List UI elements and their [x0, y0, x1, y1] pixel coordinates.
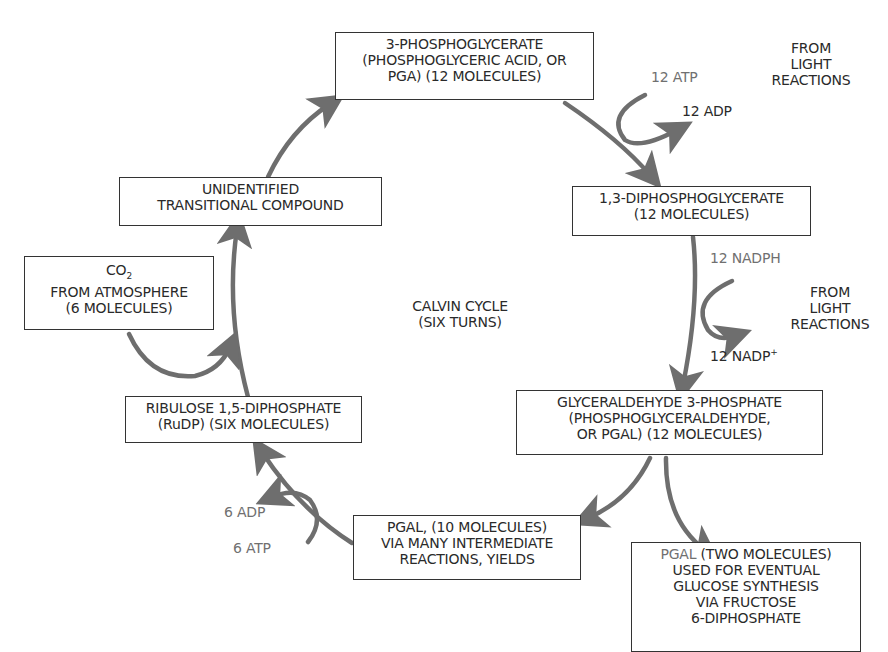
node-text: VIA MANY INTERMEDIATE: [354, 535, 580, 551]
center-subtitle: (SIX TURNS): [395, 314, 525, 330]
node-1-3-diphosphoglycerate: 1,3-DIPHOSPHOGLYCERATE (12 MOLECULES): [572, 186, 811, 236]
node-3-phosphoglycerate: 3-PHOSPHOGLYCERATE (PHOSPHOGLYCERIC ACID…: [335, 32, 594, 100]
node-text: REACTIONS, YIELDS: [354, 551, 580, 567]
node-text: (PHOSPHOGLYCERALDEHYDE,: [517, 410, 822, 426]
arrow-dpg-to-pgal: [683, 237, 695, 385]
arrow-atp6-adp6-hook: [272, 493, 317, 542]
node-pgal-10-molecules: PGAL, (10 MOLECULES) VIA MANY INTERMEDIA…: [353, 515, 581, 580]
node-text: PGA) (12 MOLECULES): [336, 68, 593, 84]
nadp-superscript: +: [770, 347, 777, 357]
node-text: GLYCERALDEHYDE 3-PHOSPHATE: [517, 394, 822, 410]
arrow-pgal-to-pgal10: [588, 458, 650, 518]
arrow-pgal-to-pgal2: [666, 458, 705, 550]
node-unidentified-transitional: UNIDENTIFIED TRANSITIONAL COMPOUND: [119, 177, 382, 226]
arrow-atp-adp-hook: [618, 95, 677, 143]
label-6-atp: 6 ATP: [233, 540, 271, 556]
node-text: PGAL (TWO MOLECULES): [632, 546, 860, 562]
label-12-adp: 12 ADP: [682, 103, 732, 119]
label-12-nadp-plus: 12 NADP+: [710, 344, 777, 364]
node-text: OR PGAL) (12 MOLECULES): [517, 426, 822, 442]
node-text: 6-DIPHOSPHATE: [632, 610, 860, 626]
label-6-adp: 6 ADP: [224, 504, 265, 520]
label-text: LIGHT: [780, 300, 880, 316]
node-text: TRANSITIONAL COMPOUND: [120, 197, 381, 213]
node-text: 1,3-DIPHOSPHOGLYCERATE: [573, 190, 810, 206]
node-text: GLUCOSE SYNTHESIS: [632, 578, 860, 594]
node-text: FROM ATMOSPHERE: [25, 284, 213, 300]
label-text: FROM: [780, 284, 880, 300]
label-12-atp: 12 ATP: [651, 69, 698, 85]
label-text: LIGHT: [756, 56, 866, 72]
node-text: USED FOR EVENTUAL: [632, 562, 860, 578]
node-text: 3-PHOSPHOGLYCERATE: [336, 36, 593, 52]
node-text: VIA FRUCTOSE: [632, 594, 860, 610]
node-ribulose-diphosphate: RIBULOSE 1,5-DIPHOSPHATE (RuDP) (SIX MOL…: [125, 396, 362, 443]
node-text: RIBULOSE 1,5-DIPHOSPHATE: [126, 400, 361, 416]
node-text: PGAL, (10 MOLECULES): [354, 519, 580, 535]
label-text: REACTIONS: [780, 316, 880, 332]
label-from-light-reactions-1: FROM LIGHT REACTIONS: [756, 40, 866, 88]
node-pgal-two-molecules: PGAL (TWO MOLECULES) USED FOR EVENTUAL G…: [631, 542, 861, 652]
node-text: (PHOSPHOGLYCERIC ACID, OR: [336, 52, 593, 68]
node-co2: CO2 FROM ATMOSPHERE (6 MOLECULES): [24, 256, 214, 330]
node-text: (12 MOLECULES): [573, 206, 810, 222]
co2-text: CO: [106, 262, 126, 278]
arrow-transitional-to-pga: [268, 104, 330, 177]
arrow-rudp-to-transitional: [233, 229, 248, 397]
node-text: (TWO MOLECULES): [696, 546, 831, 562]
nadp-text: 12 NADP: [710, 348, 770, 364]
pgal-prefix: PGAL: [660, 546, 696, 562]
node-text: (6 MOLECULES): [25, 300, 213, 316]
arrow-nadph-hook: [703, 281, 735, 338]
node-text: CO2: [25, 262, 213, 284]
label-text: FROM: [756, 40, 866, 56]
co2-subscript: 2: [126, 271, 132, 281]
label-12-nadph: 12 NADPH: [710, 250, 780, 266]
center-label: CALVIN CYCLE (SIX TURNS): [395, 298, 525, 330]
arrow-pga-to-dpg: [565, 103, 650, 175]
node-text: (RuDP) (SIX MOLECULES): [126, 416, 361, 432]
label-text: REACTIONS: [756, 72, 866, 88]
center-title: CALVIN CYCLE: [395, 298, 525, 314]
node-glyceraldehyde-3-phosphate: GLYCERALDEHYDE 3-PHOSPHATE (PHOSPHOGLYCE…: [516, 390, 823, 455]
node-text: UNIDENTIFIED: [120, 181, 381, 197]
arrow-co2-join: [129, 334, 230, 376]
label-from-light-reactions-2: FROM LIGHT REACTIONS: [780, 284, 880, 332]
